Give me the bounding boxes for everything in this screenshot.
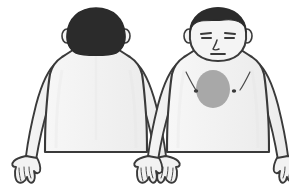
eyebrow-right xyxy=(225,33,235,34)
hair xyxy=(67,8,125,55)
body-diagram-svg xyxy=(0,0,289,191)
chest-pain-region[interactable] xyxy=(196,70,230,108)
body-pain-diagram xyxy=(0,0,289,191)
nipple-right xyxy=(232,89,236,93)
eyebrow-left xyxy=(201,33,211,34)
nipple-left xyxy=(194,89,198,93)
